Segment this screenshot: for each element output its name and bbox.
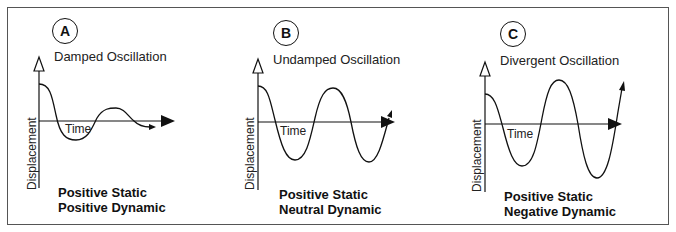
panel-c-caption: Positive Static Negative Dynamic [504, 189, 616, 219]
panel-c-curve [485, 80, 622, 178]
panel-c-caption-line2: Negative Dynamic [504, 204, 616, 219]
panel-c-y-axis-arrow-icon [480, 62, 490, 76]
panel-c-caption-line1: Positive Static [504, 189, 616, 204]
panel-c-curve-arrow-icon [619, 81, 625, 91]
panel-c-y-label: Displacement [470, 119, 484, 192]
panel-c-x-label: Time [507, 127, 533, 141]
